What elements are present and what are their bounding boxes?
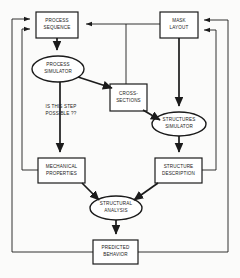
edge-mechanical-properties-feedback-to-process-sequence bbox=[22, 29, 38, 170]
mechanical-properties-box bbox=[38, 158, 85, 183]
is-this-step-possible-annotation: IS THIS STEP POSSIBLE ?? bbox=[30, 104, 92, 120]
process-simulator-ellipse bbox=[32, 56, 84, 82]
mask-layout-box bbox=[160, 12, 198, 38]
edge-cross-sections-to-structures-simulator bbox=[143, 110, 160, 120]
cross-sections-box bbox=[110, 84, 147, 111]
flowchart-diagram: PROCESS SEQUENCE MASK LAYOUT PROCESS SIM… bbox=[0, 0, 240, 278]
edge-process-simulator-to-cross-sections bbox=[78, 77, 112, 88]
edge-structure-description-to-structural-analysis bbox=[134, 183, 158, 200]
structures-simulator-ellipse bbox=[152, 112, 206, 136]
predicted-behavior-box bbox=[93, 240, 138, 264]
structure-description-box bbox=[155, 158, 202, 183]
process-sequence-box bbox=[36, 12, 78, 38]
node-shapes bbox=[32, 12, 206, 264]
edge-mechanical-properties-to-structural-analysis bbox=[82, 183, 99, 200]
diagram-vector-layer bbox=[0, 0, 240, 278]
edge-predicted-behavior-feedback-to-process-sequence bbox=[12, 19, 93, 252]
edge-structure-description-feedback-to-mask-layout bbox=[202, 30, 216, 170]
